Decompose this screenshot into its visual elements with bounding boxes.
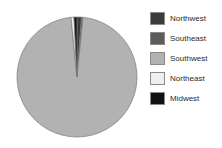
pie-chart-figure: Northwest Southeast Southwest Northeast … <box>0 0 222 148</box>
legend-item-southwest[interactable]: Southwest <box>150 48 222 68</box>
legend-swatch-midwest <box>150 92 165 105</box>
legend-label-northeast: Northeast <box>170 74 205 83</box>
chart-legend: Northwest Southeast Southwest Northeast … <box>150 8 222 140</box>
pie-slice-group <box>17 17 137 137</box>
pie-chart-svg <box>16 15 138 139</box>
legend-label-southeast: Southeast <box>170 34 206 43</box>
pie-chart-plot-area <box>16 15 138 139</box>
legend-swatch-southwest <box>150 52 165 65</box>
legend-item-midwest[interactable]: Midwest <box>150 88 222 108</box>
legend-label-southwest: Southwest <box>170 54 207 63</box>
legend-item-northwest[interactable]: Northwest <box>150 8 222 28</box>
legend-item-southeast[interactable]: Southeast <box>150 28 222 48</box>
legend-swatch-southeast <box>150 32 165 45</box>
legend-label-midwest: Midwest <box>170 94 199 103</box>
legend-label-northwest: Northwest <box>170 14 206 23</box>
legend-swatch-northeast <box>150 72 165 85</box>
legend-item-northeast[interactable]: Northeast <box>150 68 222 88</box>
legend-swatch-northwest <box>150 12 165 25</box>
